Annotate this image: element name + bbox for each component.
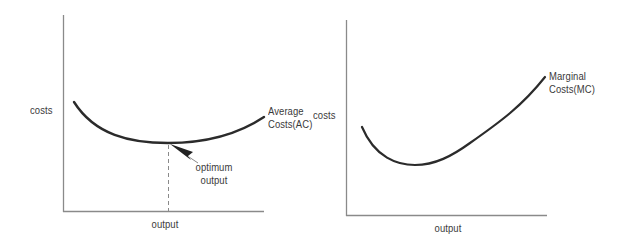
optimum-annotation-line1: optimum: [193, 161, 236, 174]
ac-curve-label-line2: Costs(AC): [268, 118, 312, 131]
cost-curves-figure: costs output Average Costs(AC) optimum o…: [0, 0, 621, 244]
ac-y-axis-label: costs: [30, 104, 53, 117]
marginal-costs-curve: [362, 77, 545, 165]
marginal-costs-diagram: [346, 20, 547, 216]
ac-x-axis-label: output: [144, 218, 187, 231]
mc-y-axis-label: costs: [313, 109, 336, 122]
mc-curve-label-line1: Marginal: [549, 70, 586, 83]
ac-curve-label-line1: Average: [268, 105, 304, 118]
mc-curve-label-line2: Costs(MC): [549, 83, 595, 96]
optimum-annotation-line2: output: [193, 174, 236, 187]
mc-x-axis-label: output: [427, 222, 470, 235]
average-costs-curve: [74, 102, 264, 143]
